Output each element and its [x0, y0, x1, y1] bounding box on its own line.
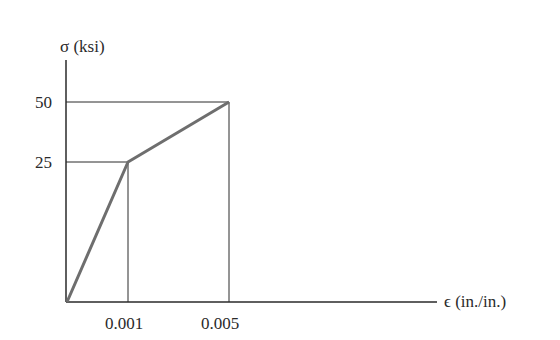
y-tick-25: 25 — [35, 153, 52, 172]
y-axis-label: σ (ksi) — [60, 37, 105, 56]
x-tick-0005: 0.005 — [201, 314, 239, 333]
x-tick-0001: 0.001 — [105, 314, 143, 333]
stress-strain-curve — [67, 102, 229, 302]
y-tick-50: 50 — [35, 93, 52, 112]
x-axis-label: ϵ (in./in.) — [444, 292, 506, 311]
stress-strain-diagram: σ (ksi) 50 25 0.001 0.005 ϵ (in./in.) — [0, 0, 560, 340]
